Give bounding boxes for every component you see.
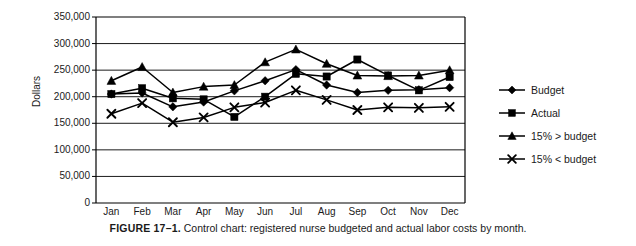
data-point-square-marker-icon [354,56,361,63]
data-point-square-marker-icon [415,87,422,94]
data-point-x-marker-icon [292,86,300,94]
data-point-x-marker-icon [107,110,115,118]
legend-item-label: Actual [527,107,560,119]
triangle-marker-icon [497,129,527,143]
data-point-diamond-marker-icon [261,77,269,85]
data-point-square-marker-icon [323,73,330,80]
chart-plot-area: Dollars 050,000100,000150,000200,000250,… [0,0,636,214]
legend-item-label: Budget [527,84,564,96]
data-point-square-marker-icon [231,113,238,120]
legend-item-label: 15% < budget [527,153,596,165]
data-point-triangle-marker-icon [107,76,116,84]
data-point-diamond-marker-icon [353,88,361,96]
figure-container: Dollars 050,000100,000150,000200,000250,… [0,0,636,246]
x-marker-icon [497,152,527,166]
data-point-square-marker-icon [509,109,516,116]
data-point-square-marker-icon [446,73,453,80]
series-actual [108,56,453,121]
figure-caption-label: FIGURE 17–1. [110,222,181,234]
legend-item-15-budget[interactable]: 15% > budget [497,124,632,147]
legend-item-15-budget[interactable]: 15% < budget [497,147,632,170]
data-point-diamond-marker-icon [384,86,392,94]
data-point-triangle-marker-icon [261,58,270,66]
figure-caption: FIGURE 17–1. Control chart: registered n… [0,222,636,234]
diamond-marker-icon [497,83,527,97]
data-point-diamond-marker-icon [169,103,177,111]
legend-item-label: 15% > budget [527,130,596,142]
square-marker-icon [497,106,527,120]
data-point-square-marker-icon [108,90,115,97]
data-point-x-marker-icon [138,99,146,107]
data-point-square-marker-icon [292,70,299,77]
legend-item-actual[interactable]: Actual [497,101,632,124]
x-axis-tick-label-dec: Dec [430,207,470,217]
data-point-diamond-marker-icon [445,83,453,91]
data-point-diamond-marker-icon [508,86,516,94]
legend-item-budget[interactable]: Budget [497,78,632,101]
series-15-budget [107,86,453,126]
data-point-triangle-marker-icon [291,45,300,53]
series-budget [107,65,454,111]
series-line [111,60,449,117]
data-point-diamond-marker-icon [322,81,330,89]
data-point-square-marker-icon [139,85,146,92]
chart-legend: BudgetActual15% > budget15% < budget [497,78,632,170]
figure-caption-text: Control chart: registered nurse budgeted… [184,222,527,234]
data-point-triangle-marker-icon [138,63,147,71]
data-point-triangle-marker-icon [322,59,331,67]
data-point-square-marker-icon [200,96,207,103]
